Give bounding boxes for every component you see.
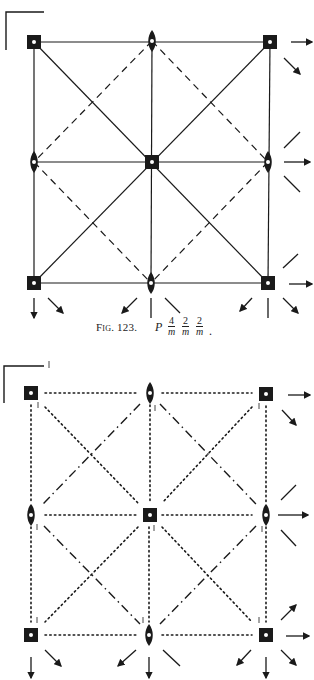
lattice-symbol: P: [155, 320, 162, 335]
caption-period: .: [209, 324, 212, 339]
fraction-2: 2 m: [182, 316, 189, 337]
figure-caption: Fig. 123. P 4 m 2 m 2 m .: [0, 316, 314, 346]
top-figure: [6, 12, 312, 318]
fraction-1: 4 m: [168, 316, 175, 337]
figure-number: Fig. 123.: [96, 321, 137, 333]
fraction-3: 2 m: [196, 316, 203, 337]
bottom-figure: [4, 361, 310, 678]
